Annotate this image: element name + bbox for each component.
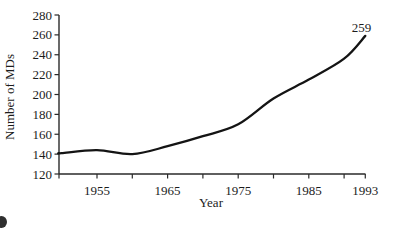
y-axis: 120140160180200220240260280 <box>33 8 60 182</box>
chart-figure: 120140160180200220240260280 195519651975… <box>0 0 396 229</box>
x-tick-label: 1993 <box>352 183 378 198</box>
y-tick-label: 140 <box>33 147 53 162</box>
x-axis-title: Year <box>199 195 224 210</box>
x-tick-label: 1965 <box>155 183 181 198</box>
y-ticks: 120140160180200220240260280 <box>33 8 60 182</box>
line-chart-svg: 120140160180200220240260280 195519651975… <box>0 0 396 229</box>
y-tick-label: 240 <box>33 47 53 62</box>
y-tick-label: 280 <box>33 8 53 23</box>
x-tick-label: 1955 <box>84 183 110 198</box>
y-tick-label: 180 <box>33 107 53 122</box>
data-line <box>58 36 365 154</box>
y-tick-label: 160 <box>33 127 53 142</box>
y-tick-label: 260 <box>33 27 53 42</box>
x-tick-label: 1975 <box>225 183 251 198</box>
end-point-label: 259 <box>352 20 372 35</box>
y-tick-label: 120 <box>33 167 53 182</box>
y-tick-label: 200 <box>33 87 53 102</box>
x-tick-label: 1985 <box>296 183 322 198</box>
y-axis-title: Number of MDs <box>2 54 17 140</box>
y-tick-label: 220 <box>33 67 53 82</box>
